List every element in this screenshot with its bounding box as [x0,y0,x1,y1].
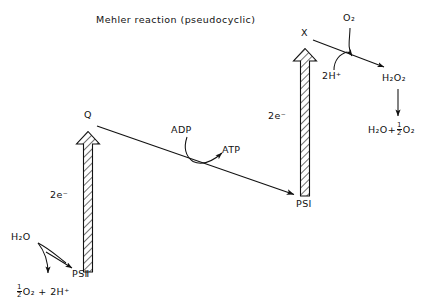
label-atp: ATP [222,145,241,155]
adp-to-atp-arrow [185,137,222,163]
label-adp: ADP [171,125,192,135]
label-two-electrons-psii: 2e⁻ [50,190,68,200]
label-hydrogen-peroxide: H₂O₂ [382,73,406,83]
label-psi: PSI [296,199,312,209]
psi-to-x-block-arrow [294,49,317,197]
label-q: Q [84,110,92,120]
q-to-psi-arrow [97,126,294,195]
protons-input-arrow [334,52,347,70]
label-dioxygen: O₂ [343,13,355,23]
label-x: X [301,28,308,38]
half-fraction-peroxide: 12 [397,122,403,138]
label-oxygen-protons-text: O₂ + 2H⁺ [23,286,70,297]
figure-title: Mehler reaction (pseudocyclic) [96,14,255,25]
mehler-reaction-diagram [0,0,431,307]
label-water-splitting-products: 12O₂ + 2H⁺ [16,284,70,300]
label-peroxide-head: H₂O+ [368,124,396,135]
half-fraction-oxygen: 12 [17,284,23,300]
dioxygen-input-arrow [349,28,352,56]
label-peroxide-products: H₂O+12O₂ [368,122,415,138]
label-two-protons: 2H⁺ [322,71,341,81]
label-peroxide-tail: O₂ [403,124,415,135]
label-psii: PSⅡ [72,269,90,279]
label-water: H₂O [11,232,31,242]
psii-to-q-block-arrow [77,132,100,273]
label-two-electrons-psi: 2e⁻ [268,111,286,121]
water-to-psii-arrow [38,243,72,268]
x-to-peroxide-arrow [313,40,384,67]
